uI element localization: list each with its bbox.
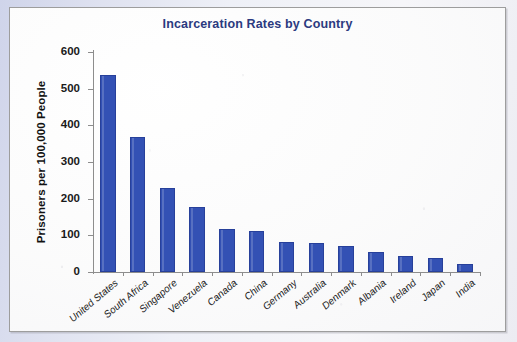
y-axis-tick-label: 600 xyxy=(61,45,80,57)
page-background: Incarceration Rates by Country Prisoners… xyxy=(0,0,517,342)
y-axis-tick-label: 100 xyxy=(61,228,80,240)
y-axis-tick: 100 xyxy=(88,235,93,236)
y-axis-tick-label: 500 xyxy=(61,82,80,94)
y-axis-title-text: Prisoners per 100,000 People xyxy=(35,81,47,244)
y-axis-tick: 300 xyxy=(88,162,93,163)
y-axis-tick-label: 400 xyxy=(61,118,80,130)
y-axis-tick: 400 xyxy=(88,125,93,126)
y-axis-tick: 200 xyxy=(88,199,93,200)
y-axis-tick-label: 200 xyxy=(61,192,80,204)
y-axis-title: Prisoners per 100,000 People xyxy=(33,52,49,272)
y-axis-tick: 500 xyxy=(88,89,93,90)
chart-frame: Incarceration Rates by Country Prisoners… xyxy=(9,7,506,332)
y-axis-tick-label: 300 xyxy=(61,155,80,167)
bar xyxy=(100,75,115,272)
y-axis-tick-label: 0 xyxy=(74,265,80,277)
y-axis-line xyxy=(93,50,94,274)
y-axis-tick: 600 xyxy=(88,52,93,53)
chart-title: Incarceration Rates by Country xyxy=(10,17,505,31)
x-axis-label: India xyxy=(470,263,494,285)
plot-area: 0100200300400500600 United StatesSouth A… xyxy=(93,52,480,272)
y-axis-tick: 0 xyxy=(88,272,93,273)
